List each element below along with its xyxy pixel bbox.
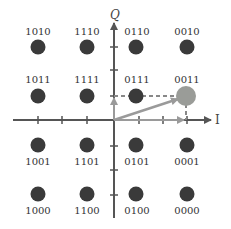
point-0001 — [180, 138, 195, 153]
point-0110 — [129, 40, 144, 55]
point-0000 — [180, 187, 195, 202]
label-0110: 0110 — [124, 26, 149, 37]
q-axis-label: Q — [110, 8, 120, 22]
point-0101 — [129, 138, 144, 153]
symbol-vector — [114, 99, 178, 120]
point-1100 — [80, 187, 95, 202]
point-1101 — [80, 138, 95, 153]
label-1110: 1110 — [74, 26, 99, 37]
label-0010: 0010 — [174, 26, 199, 37]
label-0001: 0001 — [174, 156, 199, 167]
point-0100 — [129, 187, 144, 202]
i-axis-label: I — [215, 113, 220, 127]
label-1111: 1111 — [74, 74, 99, 85]
label-0111: 0111 — [124, 74, 149, 85]
point-1111 — [80, 89, 95, 104]
label-1100: 1100 — [74, 205, 99, 216]
qam-constellation-diagram: Q I 1010 11 — [0, 0, 231, 229]
label-1001: 1001 — [25, 156, 50, 167]
label-0000: 0000 — [174, 205, 199, 216]
point-1000 — [31, 187, 46, 202]
label-1000: 1000 — [25, 205, 50, 216]
point-1110 — [80, 40, 95, 55]
point-0011-highlighted — [176, 86, 196, 106]
point-1011 — [31, 89, 46, 104]
point-1001 — [31, 138, 46, 153]
label-0100: 0100 — [124, 205, 149, 216]
label-1010: 1010 — [25, 26, 50, 37]
point-1010 — [31, 40, 46, 55]
label-0101: 0101 — [124, 156, 149, 167]
label-1101: 1101 — [74, 156, 99, 167]
constellation-svg: Q I 1010 11 — [0, 0, 231, 229]
point-0111 — [129, 89, 144, 104]
point-0010 — [180, 40, 195, 55]
label-1011: 1011 — [25, 74, 50, 85]
label-0011: 0011 — [174, 74, 199, 85]
